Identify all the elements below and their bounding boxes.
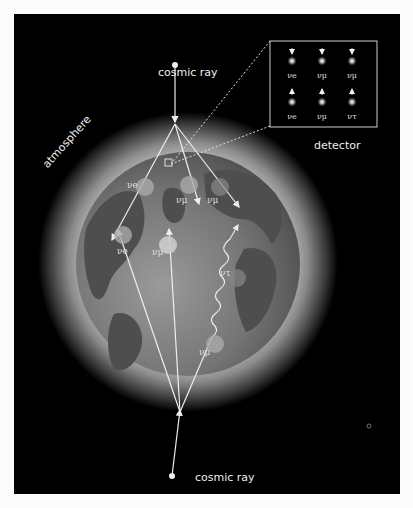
detector-label: detector [314,139,360,152]
neutrino-label: νe [127,180,138,190]
detector-label-3: νμ [337,71,367,80]
detector-label-1: νe [277,71,307,80]
detector-label-6: ντ [337,112,367,121]
diagram-panel: cosmic ray cosmic ray detector atmospher… [14,14,400,494]
detector-label-2: νμ [307,71,337,80]
neutrino-label: νμ [176,195,187,205]
neutrino-diagram [14,14,400,494]
detector-label-5: νμ [307,112,337,121]
neutrino-label: νe [117,246,128,256]
detector-label-4: νe [277,112,307,121]
cosmic-ray-label-bottom: cosmic ray [195,471,255,484]
neutrino-label: ντ [220,268,230,278]
neutrino-label: νμ [152,247,163,257]
cosmic-ray-label-top: cosmic ray [158,66,218,79]
neutrino-label: νμ [207,195,218,205]
neutrino-label: νμ [199,347,210,357]
distant-star [367,424,371,428]
